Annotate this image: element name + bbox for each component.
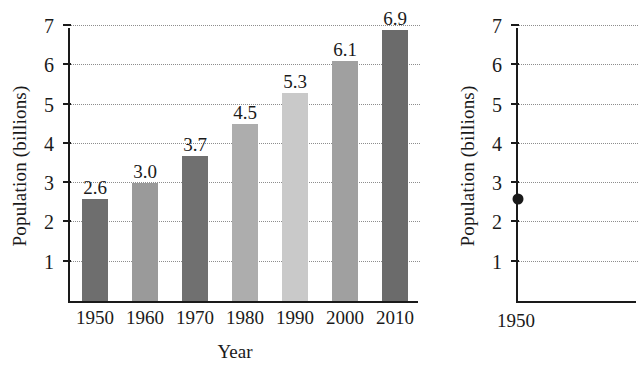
y-axis-tick: 1 [511,260,519,262]
plot-area: 1234567 2.619503.019603.719704.519805.31… [68,28,418,303]
y-axis-tick-label: 3 [492,173,502,193]
y-axis-tick-label: 3 [44,173,54,193]
x-axis-tick-label: 1990 [276,308,314,327]
y-axis-tick: 3 [63,181,71,183]
y-axis-tick-label: 7 [44,16,54,36]
y-axis-title: Population (billions) [9,76,31,256]
x-axis-title: Year [60,341,410,363]
bar: 3.71970 [182,156,208,301]
y-axis-tick: 3 [511,181,519,183]
bar-value-label: 6.1 [333,40,357,59]
y-axis-tick: 6 [63,63,71,65]
gridline [70,25,420,26]
x-axis-tick-label: 2010 [376,308,414,327]
y-axis-tick-label: 4 [44,134,54,154]
bar-value-label: 2.6 [83,178,107,197]
x-axis-tick-label: 2000 [326,308,364,327]
y-axis-tick-label: 1 [492,252,502,272]
second-y-axis-title: Population (billions) [457,76,479,256]
bar-value-label: 4.5 [233,103,257,122]
y-axis-tick: 6 [511,63,519,65]
population-scatter-chart-partial: Population (billions) 1234567 1950 [440,0,554,375]
gridline [518,143,638,144]
y-axis-tick-label: 6 [44,55,54,75]
y-axis-tick: 2 [511,220,519,222]
y-axis-tick-label: 5 [492,95,502,115]
y-axis-tick-label: 1 [44,252,54,272]
population-bar-chart: Population (billions) 1234567 2.619503.0… [0,0,440,375]
bar: 4.51980 [232,124,258,301]
bar: 5.31990 [282,93,308,301]
gridline [518,261,638,262]
data-point [513,193,524,204]
bar: 6.92010 [382,30,408,301]
y-axis-tick: 1 [63,260,71,262]
y-axis-tick-label: 4 [492,134,502,154]
y-axis-tick-label: 6 [492,55,502,75]
x-axis-tick-label: 1980 [226,308,264,327]
bar-value-label: 3.0 [133,162,157,181]
gridline [518,25,638,26]
gridline [518,182,638,183]
y-axis-tick: 7 [63,24,71,26]
gridline [518,64,638,65]
x-axis-tick-label: 1970 [176,308,214,327]
y-axis-tick: 7 [511,24,519,26]
gridline [70,64,420,65]
y-axis-tick: 4 [63,142,71,144]
y-axis-tick-label: 2 [492,212,502,232]
bar-value-label: 6.9 [383,9,407,28]
y-axis-tick: 5 [63,103,71,105]
bar: 3.01960 [132,183,158,301]
bar: 6.12000 [332,61,358,301]
bar: 2.61950 [82,199,108,301]
bar-value-label: 3.7 [183,135,207,154]
x-axis-tick-label: 1960 [126,308,164,327]
y-axis-tick: 5 [511,103,519,105]
bar-value-label: 5.3 [283,72,307,91]
second-plot-area: 1234567 [516,28,636,303]
second-x-tick-label: 1950 [497,310,535,332]
y-axis-tick: 2 [63,220,71,222]
y-axis-tick: 4 [511,142,519,144]
y-axis-tick-label: 5 [44,95,54,115]
gridline [518,104,638,105]
y-axis-tick-label: 7 [492,16,502,36]
gridline [518,221,638,222]
x-axis-tick-label: 1950 [76,308,114,327]
y-axis-tick-label: 2 [44,212,54,232]
